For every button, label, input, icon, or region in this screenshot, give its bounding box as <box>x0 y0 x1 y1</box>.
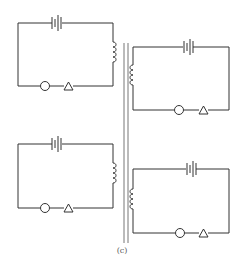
lamp-icon <box>41 204 50 213</box>
circuit-top-right <box>130 39 229 115</box>
iron-core <box>124 43 128 243</box>
switch-icon <box>199 106 208 114</box>
switch-icon <box>64 82 73 90</box>
coil-icon <box>113 42 116 62</box>
lamp-icon <box>176 229 185 238</box>
battery-icon <box>52 136 61 152</box>
circuit-bottom-right <box>130 161 229 238</box>
coil-icon <box>130 65 133 85</box>
lamp-icon <box>175 106 184 115</box>
lamp-icon <box>41 82 50 91</box>
battery-icon <box>184 39 193 55</box>
circuit-bottom-left <box>18 136 116 213</box>
battery-icon <box>52 15 61 31</box>
switch-icon <box>64 204 73 212</box>
coil-icon <box>130 189 133 209</box>
battery-icon <box>187 161 196 177</box>
coil-icon <box>113 163 116 183</box>
circuit-diagram <box>0 0 243 265</box>
circuit-top-left <box>18 15 116 91</box>
figure-caption: (c) <box>112 246 132 255</box>
switch-icon <box>199 229 208 237</box>
